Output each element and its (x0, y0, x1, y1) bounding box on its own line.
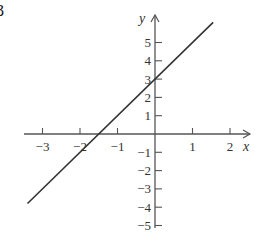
y-tick-label: 5 (145, 35, 152, 50)
y-tick-label: −4 (137, 200, 151, 215)
x-tick-label: 1 (189, 139, 196, 154)
line-chart: −3−2−11254321−1−2−3−4−5xy (0, 0, 259, 249)
y-tick-label: −2 (137, 163, 151, 178)
y-tick-label: 1 (145, 108, 152, 123)
y-tick-label: 2 (145, 90, 152, 105)
x-tick-label: −1 (111, 139, 125, 154)
x-tick-label: 2 (227, 139, 234, 154)
y-tick-label: −5 (137, 218, 151, 233)
x-axis-label: x (242, 139, 250, 154)
y-tick-label: −1 (137, 145, 151, 160)
data-line (28, 22, 214, 203)
y-tick-label: 4 (145, 53, 152, 68)
x-tick-label: −3 (36, 139, 50, 154)
y-tick-label: −3 (137, 181, 151, 196)
y-axis-label: y (137, 11, 146, 26)
